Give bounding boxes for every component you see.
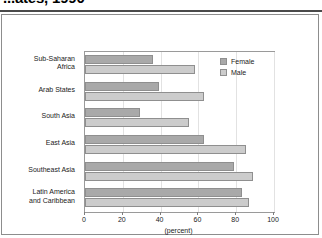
category-label: Sub-SaharanAfrica <box>0 55 75 72</box>
x-tick-mark <box>235 212 236 215</box>
category-label: Arab States <box>0 86 75 95</box>
x-tick-label: 100 <box>267 216 279 223</box>
x-tick-mark <box>273 212 274 215</box>
chart-legend: Female Male <box>220 56 282 78</box>
title-divider-rule <box>0 10 322 12</box>
bar-female <box>85 135 204 144</box>
bar-group <box>85 159 274 186</box>
bar-female <box>85 162 234 171</box>
x-tick-mark <box>160 212 161 215</box>
legend-label-female: Female <box>231 58 254 65</box>
x-tick-label: 0 <box>82 216 86 223</box>
bar-female <box>85 82 159 91</box>
x-tick-label: 20 <box>118 216 126 223</box>
bar-male <box>85 118 189 127</box>
page-title-clipped: ...ates, 1990 <box>0 0 322 10</box>
bar-male <box>85 172 253 181</box>
bar-female <box>85 108 140 117</box>
category-label: Southeast Asia <box>0 166 75 175</box>
bar-group <box>85 185 274 212</box>
legend-item-female: Female <box>220 56 282 67</box>
bar-female <box>85 188 242 197</box>
legend-item-male: Male <box>220 67 282 78</box>
category-label: East Asia <box>0 139 75 148</box>
page-title-text: ...ates, 1990 <box>3 0 85 6</box>
legend-swatch-female-icon <box>220 58 227 65</box>
bar-group <box>85 105 274 132</box>
bar-male <box>85 92 204 101</box>
bar-male <box>85 65 195 74</box>
x-tick-mark <box>122 212 123 215</box>
x-tick-label: 40 <box>156 216 164 223</box>
x-tick-mark <box>197 212 198 215</box>
bar-group <box>85 79 274 106</box>
x-axis-title: (percent) <box>84 227 273 234</box>
x-tick-label: 60 <box>193 216 201 223</box>
bar-male <box>85 145 246 154</box>
x-tick-label: 80 <box>231 216 239 223</box>
chart-frame: Sub-SaharanAfricaArab StatesSouth AsiaEa… <box>1 14 319 235</box>
legend-swatch-male-icon <box>220 69 227 76</box>
category-label: South Asia <box>0 112 75 121</box>
category-label: Latin Americaand Caribbean <box>0 188 75 205</box>
bar-female <box>85 55 153 64</box>
legend-label-male: Male <box>231 69 246 76</box>
figure-page: ...ates, 1990 Sub-SaharanAfricaArab Stat… <box>0 0 322 238</box>
bar-male <box>85 198 249 207</box>
x-tick-mark <box>84 212 85 215</box>
bar-group <box>85 132 274 159</box>
